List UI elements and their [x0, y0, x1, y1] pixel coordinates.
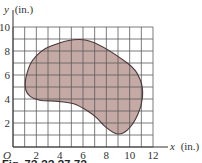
x-tick-label: 8: [104, 149, 110, 161]
y-tick-label: 4: [5, 93, 11, 105]
y-tick-labels: 246810: [0, 21, 11, 129]
area-diagram: y (in.) x (in.) O 24681012 246810 Fig. 7…: [0, 0, 202, 163]
y-tick-label: 10: [0, 21, 11, 33]
y-axis-label: y (in.): [3, 3, 34, 16]
grid: [13, 27, 153, 147]
y-tick-label: 8: [5, 45, 11, 57]
x-tick-label: 10: [124, 149, 136, 161]
y-tick-label: 2: [5, 117, 11, 129]
x-tick-label: 12: [148, 149, 159, 161]
x-axis-label: x (in.): [169, 140, 200, 153]
y-tick-label: 6: [5, 69, 11, 81]
figure-caption: Fig. 7?-?? ?7-7?: [2, 158, 87, 163]
